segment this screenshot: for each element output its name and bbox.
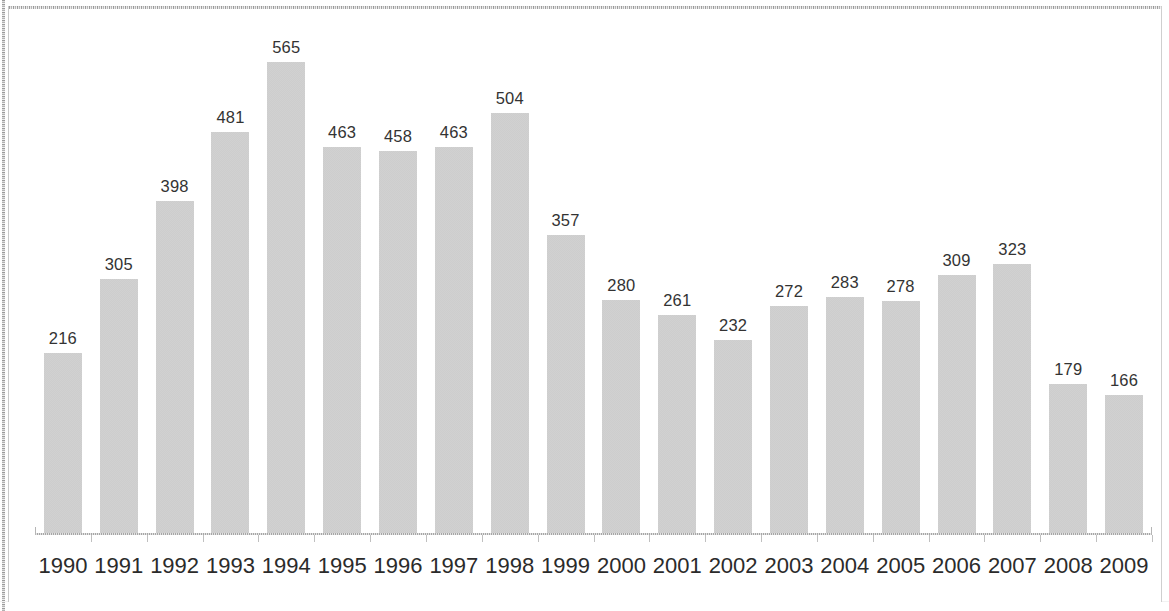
- bar-value-label: 309: [929, 251, 985, 269]
- axis-tick: [873, 535, 874, 542]
- bar[interactable]: [1105, 395, 1143, 533]
- axis-tick: [538, 535, 539, 542]
- category-label: 2004: [817, 551, 873, 581]
- bar-group: 232: [705, 20, 761, 533]
- bar[interactable]: [379, 151, 417, 533]
- bar-group: 305: [91, 20, 147, 533]
- category-label: 1990: [35, 551, 91, 581]
- axis-tick: [147, 535, 148, 542]
- bar-value-label: 458: [370, 127, 426, 145]
- bar-group: 278: [873, 20, 929, 533]
- category-label: 1996: [370, 551, 426, 581]
- axis-tick: [258, 535, 259, 542]
- axis-tick: [314, 535, 315, 542]
- bar-group: 357: [538, 20, 594, 533]
- category-axis-labels: 1990199119921993199419951996199719981999…: [35, 551, 1152, 591]
- bar[interactable]: [826, 297, 864, 533]
- category-label: 2000: [594, 551, 650, 581]
- bar-group: 481: [203, 20, 259, 533]
- bar[interactable]: [714, 340, 752, 533]
- category-label: 1991: [91, 551, 147, 581]
- axis-tick: [482, 535, 483, 542]
- category-label: 2006: [929, 551, 985, 581]
- bar[interactable]: [211, 132, 249, 533]
- axis-cap-right: [1151, 527, 1152, 535]
- category-label: 2009: [1096, 551, 1152, 581]
- bar-group: 398: [147, 20, 203, 533]
- bar[interactable]: [602, 300, 640, 533]
- scan-edge-left: [2, 0, 5, 611]
- category-label: 2002: [705, 551, 761, 581]
- bar-value-label: 216: [35, 329, 91, 347]
- bar-value-label: 232: [705, 316, 761, 334]
- bar-group: 463: [426, 20, 482, 533]
- bar-value-label: 504: [482, 89, 538, 107]
- bar-group: 179: [1040, 20, 1096, 533]
- bar[interactable]: [44, 353, 82, 533]
- category-label: 2007: [984, 551, 1040, 581]
- bar[interactable]: [1049, 384, 1087, 533]
- chart-page: 2163053984815654634584635043572802612322…: [0, 0, 1169, 611]
- bar-value-label: 398: [147, 177, 203, 195]
- category-label: 2003: [761, 551, 817, 581]
- axis-tick: [649, 535, 650, 542]
- bar-group: 458: [370, 20, 426, 533]
- axis-tick: [761, 535, 762, 542]
- bar-value-label: 280: [594, 276, 650, 294]
- bar-group: 261: [649, 20, 705, 533]
- bar[interactable]: [435, 147, 473, 533]
- category-label: 1994: [258, 551, 314, 581]
- category-label: 1998: [482, 551, 538, 581]
- bar-value-label: 261: [649, 291, 705, 309]
- bar[interactable]: [156, 201, 194, 533]
- bar-group: 216: [35, 20, 91, 533]
- bar[interactable]: [547, 235, 585, 533]
- axis-tick: [984, 535, 985, 542]
- axis-tick: [1152, 535, 1153, 542]
- axis-tick: [817, 535, 818, 542]
- bar-group: 272: [761, 20, 817, 533]
- bar-group: 309: [929, 20, 985, 533]
- bar-value-label: 305: [91, 255, 147, 273]
- bar[interactable]: [100, 279, 138, 533]
- bar-group: 280: [594, 20, 650, 533]
- category-label: 2001: [649, 551, 705, 581]
- bar[interactable]: [770, 306, 808, 533]
- bar-value-label: 463: [314, 123, 370, 141]
- bar[interactable]: [993, 264, 1031, 533]
- axis-tick: [1096, 535, 1097, 542]
- bar-value-label: 179: [1040, 360, 1096, 378]
- axis-tick: [203, 535, 204, 542]
- bar-value-label: 323: [984, 240, 1040, 258]
- bar-value-label: 463: [426, 123, 482, 141]
- bar-value-label: 357: [538, 211, 594, 229]
- bar[interactable]: [658, 315, 696, 533]
- bar[interactable]: [267, 62, 305, 533]
- axis-cap-left: [35, 527, 36, 535]
- bar-value-label: 481: [203, 108, 259, 126]
- bar[interactable]: [882, 301, 920, 533]
- axis-tick: [91, 535, 92, 542]
- axis-tick: [426, 535, 427, 542]
- bar-group: 283: [817, 20, 873, 533]
- bar[interactable]: [491, 113, 529, 533]
- bar-group: 323: [984, 20, 1040, 533]
- bar-value-label: 283: [817, 273, 873, 291]
- bar-series: 2163053984815654634584635043572802612322…: [35, 20, 1152, 533]
- category-label: 1992: [147, 551, 203, 581]
- category-label: 1997: [426, 551, 482, 581]
- axis-tick: [1040, 535, 1041, 542]
- bar-value-label: 166: [1096, 371, 1152, 389]
- axis-tick: [929, 535, 930, 542]
- bar[interactable]: [938, 275, 976, 533]
- category-label: 2008: [1040, 551, 1096, 581]
- category-label: 1995: [314, 551, 370, 581]
- category-label: 2005: [873, 551, 929, 581]
- bar-group: 463: [314, 20, 370, 533]
- bar-group: 504: [482, 20, 538, 533]
- bar-value-label: 272: [761, 282, 817, 300]
- category-label: 1993: [203, 551, 259, 581]
- axis-tick: [594, 535, 595, 542]
- axis-tick: [370, 535, 371, 542]
- bar[interactable]: [323, 147, 361, 533]
